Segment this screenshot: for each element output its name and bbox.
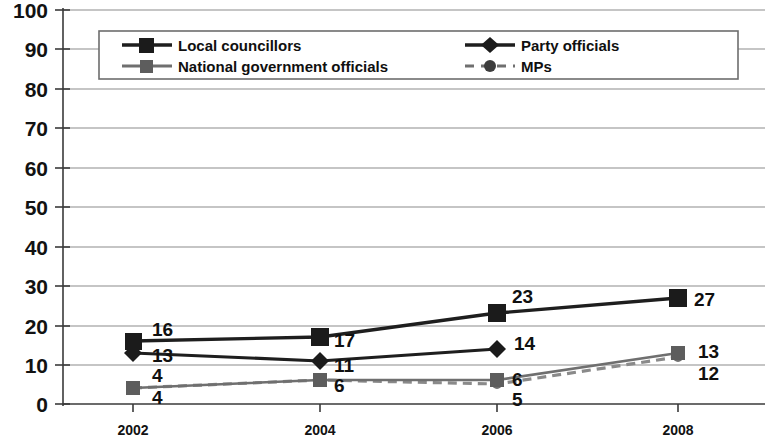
data-label-ng-2006: 6 xyxy=(512,369,523,390)
data-label-ng-2002: 4 xyxy=(152,365,163,386)
series-local-councillors-line xyxy=(133,298,678,341)
ytick-label-10: 10 xyxy=(25,354,48,377)
xtick-label-2004: 2004 xyxy=(304,422,335,438)
ytick-label-0: 0 xyxy=(36,393,48,416)
data-label-mp-2008: 12 xyxy=(698,363,719,384)
legend-label-local-councillors: Local councillors xyxy=(178,37,301,54)
ytick-label-20: 20 xyxy=(25,315,48,338)
data-point-labels: 16 17 23 27 13 11 14 4 6 6 13 4 5 12 xyxy=(152,286,719,410)
data-label-ng-2004: 6 xyxy=(334,375,345,396)
square-icon xyxy=(139,38,154,53)
data-label-lc-2006: 23 xyxy=(512,286,533,307)
xtick-label-2006: 2006 xyxy=(481,422,512,438)
legend-label-national-government-officials: National government officials xyxy=(178,58,388,75)
chart-legend[interactable]: Local councillors National government of… xyxy=(99,31,738,79)
series-ngo-marker-2002 xyxy=(126,381,140,395)
ytick-label-50: 50 xyxy=(25,196,48,219)
series-ngo-marker-2004 xyxy=(313,373,327,387)
ytick-label-80: 80 xyxy=(25,78,48,101)
series-local-councillors xyxy=(125,289,687,350)
series-national-government-officials xyxy=(126,346,685,395)
series-ngo-marker-2006 xyxy=(490,373,504,387)
series-ngo-marker-2008 xyxy=(671,346,685,360)
data-label-lc-2004: 17 xyxy=(334,330,355,351)
y-axis-tick-labels: 100 90 80 70 60 50 40 30 20 10 0 xyxy=(13,0,48,416)
ytick-label-90: 90 xyxy=(25,38,48,61)
series-lc-marker-2004 xyxy=(311,328,329,346)
legend-item-local-councillors[interactable]: Local councillors xyxy=(122,37,301,54)
series-lc-marker-2008 xyxy=(669,289,687,307)
xtick-label-2002: 2002 xyxy=(117,422,148,438)
ytick-label-100: 100 xyxy=(13,0,48,22)
ytick-label-30: 30 xyxy=(25,275,48,298)
circle-icon xyxy=(484,60,496,72)
xtick-label-2008: 2008 xyxy=(662,422,693,438)
series-lc-marker-2006 xyxy=(488,304,506,322)
data-label-po-2006: 14 xyxy=(514,333,536,354)
data-label-mp-2002: 4 xyxy=(152,387,163,408)
data-label-lc-2008: 27 xyxy=(694,289,715,310)
legend-label-mps: MPs xyxy=(521,58,552,75)
ytick-label-40: 40 xyxy=(25,236,48,259)
legend-label-party-officials: Party officials xyxy=(521,37,619,54)
ytick-label-70: 70 xyxy=(25,117,48,140)
data-label-po-2002: 13 xyxy=(152,345,173,366)
series-party-officials-marker-2006 xyxy=(488,340,506,358)
data-label-lc-2002: 16 xyxy=(152,319,173,340)
series-lc-marker-2002 xyxy=(125,333,142,350)
series-mps xyxy=(128,352,683,393)
data-label-mp-2006: 5 xyxy=(512,389,523,410)
ytick-label-60: 60 xyxy=(25,157,48,180)
x-axis-tick-labels: 2002 2004 2006 2008 xyxy=(117,422,693,438)
chart-canvas: 100 90 80 70 60 50 40 30 20 10 0 2002 20… xyxy=(0,0,765,441)
series-party-officials-marker-2004 xyxy=(311,352,329,370)
data-label-ng-2008: 13 xyxy=(698,341,719,362)
line-chart: 100 90 80 70 60 50 40 30 20 10 0 2002 20… xyxy=(0,0,765,441)
data-label-po-2004: 11 xyxy=(334,355,355,376)
square-icon xyxy=(140,60,153,73)
